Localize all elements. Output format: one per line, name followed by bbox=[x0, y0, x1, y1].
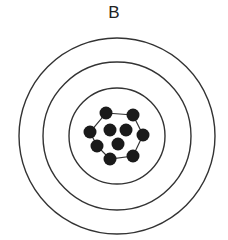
shot-dot bbox=[137, 129, 150, 142]
shot-dot bbox=[104, 124, 117, 137]
shot-dot bbox=[91, 140, 104, 153]
shot-dot bbox=[100, 107, 113, 120]
shot-dot bbox=[127, 150, 140, 163]
target-ring bbox=[69, 88, 165, 184]
shot-dot bbox=[127, 109, 140, 122]
shot-dot bbox=[104, 153, 117, 166]
shot-cluster bbox=[84, 107, 150, 166]
target-ring bbox=[43, 62, 191, 210]
shot-dot bbox=[112, 138, 125, 151]
target-ring bbox=[19, 38, 215, 234]
target-rings bbox=[19, 38, 215, 234]
shot-dot bbox=[120, 124, 133, 137]
shot-dot bbox=[84, 126, 97, 139]
target-diagram bbox=[0, 0, 228, 240]
